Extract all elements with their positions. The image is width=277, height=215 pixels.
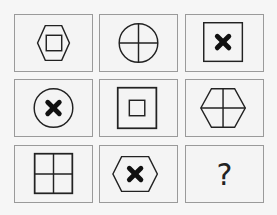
cell-circle-cross: [99, 14, 178, 72]
hexagon-with-x-icon: [100, 146, 177, 202]
cell-square-square: [99, 79, 178, 137]
square-with-x-icon: [186, 15, 263, 71]
cell-hexagon-square: [14, 14, 93, 72]
cell-hexagon-x: [99, 145, 178, 203]
puzzle-grid: ?: [0, 0, 277, 215]
cell-unknown-answer: ?: [185, 145, 264, 203]
square-with-cross-icon: [15, 146, 92, 202]
square-with-square-icon: [100, 80, 177, 136]
cell-circle-x: [14, 79, 93, 137]
hexagon-with-cross-icon: [186, 80, 263, 136]
question-mark: ?: [186, 146, 263, 202]
cell-square-x: [185, 14, 264, 72]
cell-hexagon-cross: [185, 79, 264, 137]
circle-with-x-icon: [15, 80, 92, 136]
circle-with-cross-icon: [100, 15, 177, 71]
cell-square-cross: [14, 145, 93, 203]
hexagon-with-square-icon: [15, 15, 92, 71]
